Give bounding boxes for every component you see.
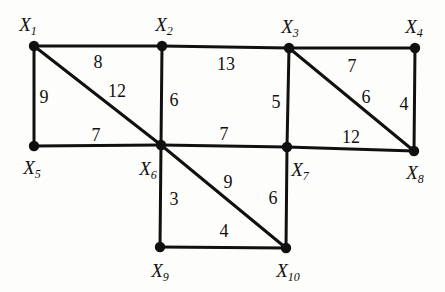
- edge-line-group: [34, 46, 415, 248]
- graph-edge: [162, 46, 289, 48]
- graph-diagram-canvas: 8912136756477123964 X1X2X3X4X5X6X7X8X9X1…: [0, 0, 445, 292]
- node-label-x2: X2: [155, 15, 173, 34]
- graph-node-dot[interactable]: [282, 142, 292, 152]
- edge-weight-label: 4: [400, 95, 409, 113]
- node-label-x4: X4: [405, 17, 423, 36]
- node-label-x9: X9: [151, 261, 169, 280]
- graph-node-dot[interactable]: [157, 41, 167, 51]
- edge-weight-label: 3: [170, 190, 179, 208]
- graph-node-dot[interactable]: [29, 141, 39, 151]
- graph-edge: [161, 46, 162, 145]
- edge-weight-label: 6: [269, 189, 278, 207]
- graph-edges-svg: [0, 0, 445, 292]
- edge-weight-label: 4: [220, 222, 229, 240]
- graph-node-dot[interactable]: [155, 242, 165, 252]
- edge-weight-label: 6: [362, 88, 371, 106]
- node-label-x6: X6: [139, 159, 157, 178]
- graph-edge: [34, 145, 161, 146]
- graph-node-dot[interactable]: [284, 43, 294, 53]
- graph-edge: [160, 247, 286, 248]
- node-label-x5: X5: [23, 158, 41, 177]
- edge-weight-label: 7: [92, 126, 101, 144]
- graph-node-dot[interactable]: [410, 43, 420, 53]
- edge-weight-label: 7: [348, 57, 357, 75]
- edge-weight-label: 5: [272, 93, 281, 111]
- graph-edge: [414, 48, 415, 151]
- edge-weight-label: 6: [170, 91, 179, 109]
- node-label-x3: X3: [281, 17, 299, 36]
- node-label-x8: X8: [406, 163, 424, 182]
- graph-node-dot[interactable]: [29, 41, 39, 51]
- edge-weight-label: 13: [217, 55, 235, 73]
- graph-edge: [286, 147, 287, 248]
- node-label-x10: X10: [276, 261, 300, 280]
- edge-weight-label: 9: [224, 173, 233, 191]
- graph-edge: [160, 145, 161, 247]
- edge-weight-label: 12: [342, 128, 360, 146]
- graph-node-dot[interactable]: [409, 146, 419, 156]
- edge-weight-label: 12: [108, 82, 126, 100]
- graph-node-dot[interactable]: [281, 243, 291, 253]
- edge-weight-label: 9: [40, 88, 49, 106]
- edge-weight-label: 7: [220, 125, 229, 143]
- graph-edge: [161, 145, 287, 147]
- node-label-x1: X1: [19, 15, 37, 34]
- node-label-x7: X7: [291, 160, 309, 179]
- graph-edge: [287, 48, 289, 147]
- graph-node-dot[interactable]: [156, 140, 166, 150]
- graph-edge: [287, 147, 414, 151]
- edge-weight-label: 8: [94, 53, 103, 71]
